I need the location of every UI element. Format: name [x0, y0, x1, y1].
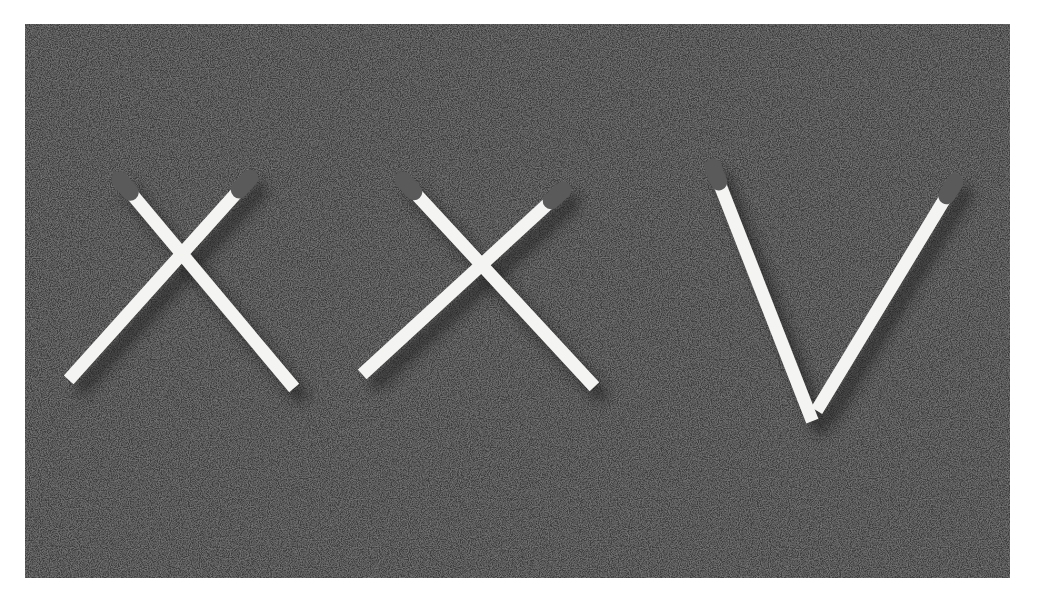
match-head: [120, 180, 130, 192]
felt-background-with-matches: [25, 24, 1010, 578]
match-head: [403, 180, 414, 192]
photo: Six matchsticks arranged on dark gray fe…: [25, 24, 1010, 578]
match-head: [947, 182, 955, 196]
match-head: [713, 167, 719, 182]
match-head: [551, 190, 563, 201]
match-head: [239, 178, 250, 190]
